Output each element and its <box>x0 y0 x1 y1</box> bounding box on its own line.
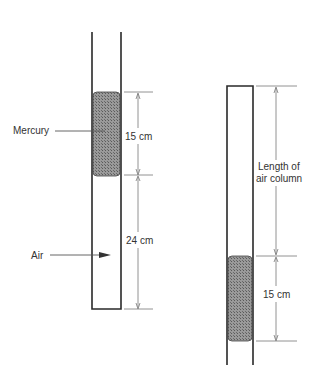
left-air-length: 24 cm <box>126 235 153 246</box>
left-mercury-length: 15 cm <box>125 131 152 142</box>
left-tube <box>92 32 121 309</box>
left-mercury <box>93 92 120 176</box>
right-air-length-line2: air column <box>256 173 302 184</box>
u-tube-diagram: Mercury Air 15 cm 24 cm Length of air co… <box>0 0 322 385</box>
right-mercury <box>228 256 252 341</box>
right-tube <box>227 86 253 365</box>
air-label: Air <box>31 250 44 261</box>
right-mercury-length: 15 cm <box>263 289 290 300</box>
right-dimensions <box>256 86 297 341</box>
right-air-length-line1: Length of <box>258 161 300 172</box>
air-arrow-icon <box>99 252 111 258</box>
left-dimensions <box>124 92 153 309</box>
mercury-label: Mercury <box>13 125 49 136</box>
